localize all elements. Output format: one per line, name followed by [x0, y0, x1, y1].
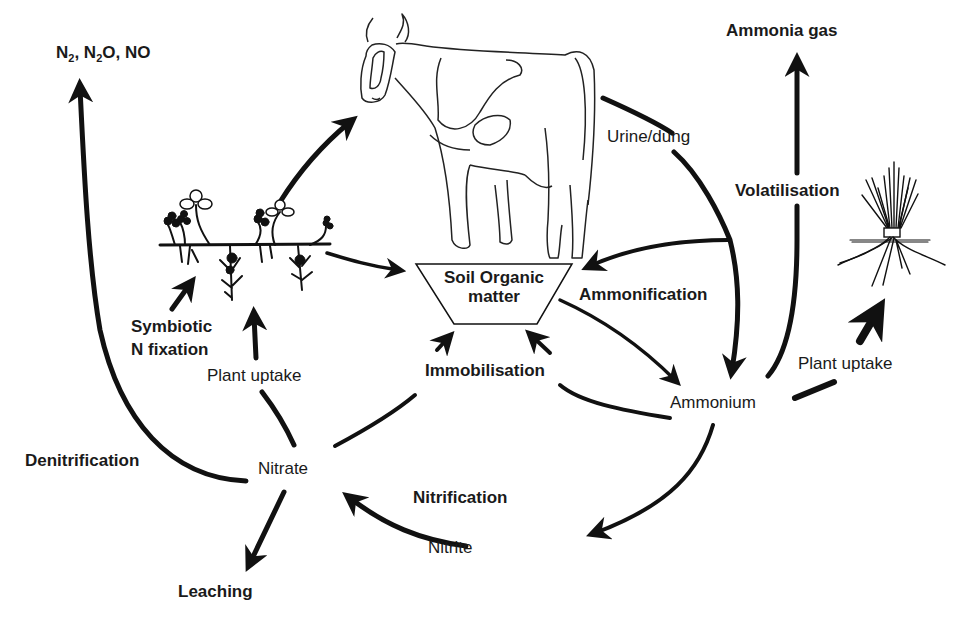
clover-plant-illustration [160, 190, 333, 300]
gases-label-n2: , N [74, 43, 96, 62]
line-ammonium-plant-uptake [795, 382, 834, 398]
arrow-immobilisation-right [532, 336, 550, 353]
nitrification-label: Nitrification [413, 489, 507, 508]
symbiotic-line1: Symbiotic [131, 318, 212, 337]
arrow-urine-dung-down [674, 152, 738, 370]
cow-illustration [361, 14, 595, 258]
ammonia-gas-label: Ammonia gas [726, 22, 837, 41]
gases-label-n: N [56, 43, 68, 62]
arrow-nitrate-immobilisation [335, 395, 415, 446]
symbiotic-line2: N fixation [131, 341, 212, 360]
ammonification-label: Ammonification [579, 286, 707, 305]
arrow-nitrification [595, 425, 713, 533]
arrow-ammonification [560, 300, 675, 380]
nitrate-label: Nitrate [258, 460, 308, 479]
arrow-denitrification [80, 88, 246, 481]
arrow-plant-uptake-right [860, 312, 877, 341]
line-ammonium-immobilisation [560, 385, 670, 418]
soil-organic-matter-line2: matter [426, 288, 562, 307]
arrow-urine-to-som [590, 240, 728, 266]
urine-dung-label: Urine/dung [607, 128, 690, 147]
leaching-label: Leaching [178, 583, 253, 602]
volatilisation-label: Volatilisation [733, 182, 842, 201]
soil-organic-matter-line1: Soil Organic [426, 269, 562, 288]
immobilisation-label: Immobilisation [425, 362, 545, 381]
denitrification-label: Denitrification [25, 452, 139, 471]
plant-uptake-right-label: Plant uptake [798, 355, 893, 374]
arrow-immobilisation-left [437, 338, 448, 350]
grass-tuft-illustration [838, 162, 945, 286]
diagram-canvas [0, 0, 966, 627]
gases-label-rest: O, NO [102, 43, 150, 62]
arrow-leaching [250, 492, 284, 563]
nitrogen-cycle-diagram: N2, N2O, NO Ammonia gas Urine/dung Volat… [0, 0, 966, 627]
nitrite-label: Nitrite [428, 539, 472, 558]
arrow-clover-to-som [327, 253, 398, 270]
arrow-symbiotic-fixation [172, 284, 190, 309]
symbiotic-n-fixation-label: Symbiotic N fixation [131, 318, 212, 359]
plant-uptake-left-label: Plant uptake [207, 367, 302, 386]
arrow-plant-uptake-left [254, 316, 256, 358]
ammonium-label: Ammonium [670, 394, 756, 413]
arrow-volatilisation [768, 206, 797, 376]
soil-organic-matter-label: Soil Organic matter [426, 269, 562, 306]
gases-label: N2, N2O, NO [56, 44, 150, 63]
line-nitrate-to-plant-uptake [262, 392, 294, 445]
arrow-clover-to-cow [280, 122, 350, 202]
